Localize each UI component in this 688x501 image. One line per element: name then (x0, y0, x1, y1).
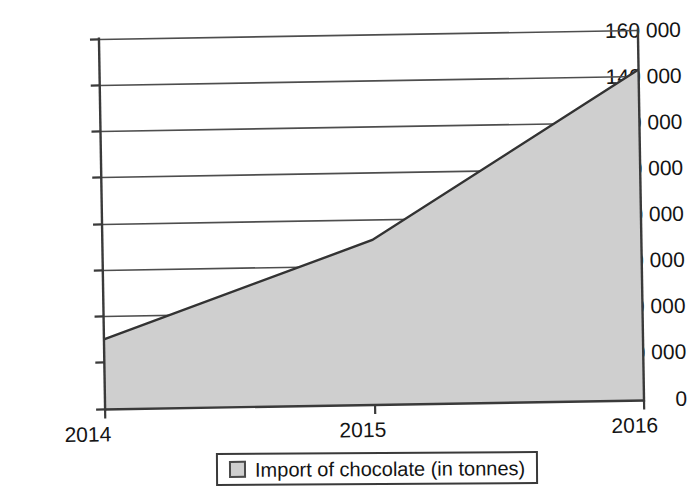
legend-entry-label: Import of chocolate (in tonnes) (255, 458, 525, 480)
filled-square-icon (229, 461, 246, 478)
plot-area (0, 0, 688, 454)
chart-legend: Import of chocolate (in tonnes) (216, 451, 538, 486)
gridline-140000 (100, 77, 639, 86)
gridline-160000 (99, 31, 638, 40)
chart-figure: 160 000 140 000 120 000 100 000 80 000 6… (0, 0, 688, 454)
